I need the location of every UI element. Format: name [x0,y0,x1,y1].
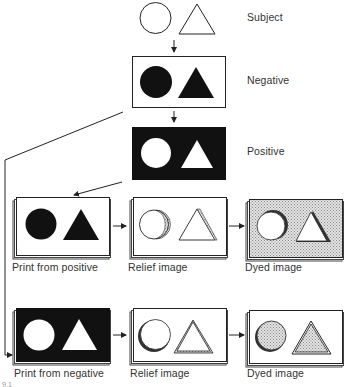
dyed-image-positive [246,200,344,262]
subject-circle-icon [140,3,171,34]
subject-shapes [140,3,215,35]
arrow-positive-to-print [74,182,122,195]
label-dyed-image-2: Dyed image [247,367,304,379]
relief-image-positive [130,198,228,260]
diagram-canvas [0,0,346,387]
relief-image-negative [130,309,228,366]
positive-film [132,127,226,180]
label-print-from-negative: Print from negative [14,367,104,379]
dyed-image-negative [246,311,344,368]
label-relief-image-2: Relief image [130,367,190,379]
negative-film [133,57,226,108]
figure-number: 9.1 [2,381,12,387]
label-dyed-image-1: Dyed image [245,261,302,273]
subject-triangle-icon [179,4,215,34]
label-relief-image-1: Relief image [128,261,188,273]
label-subject: Subject [247,11,283,23]
print-from-positive [13,198,111,260]
label-print-from-positive: Print from positive [12,261,98,273]
print-from-negative [13,308,111,365]
label-positive: Positive [247,145,285,157]
label-negative: Negative [247,74,289,86]
